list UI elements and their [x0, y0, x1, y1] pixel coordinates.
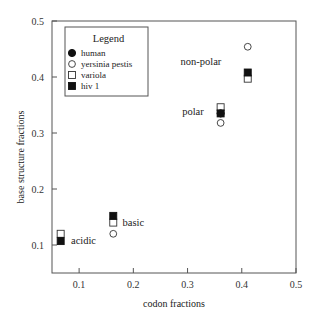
x-tick-label: 0.2 [127, 279, 140, 290]
legend-marker-hiv-1 [69, 83, 76, 90]
legend-label-yersinia-pestis: yersinia pestis [81, 59, 133, 69]
x-axis-label: codon fractions [143, 298, 205, 309]
legend-marker-yersinia-pestis [69, 61, 76, 68]
marker-hiv-1-non-polar [244, 69, 251, 76]
group-label-non-polar: non-polar [181, 56, 222, 67]
marker-hiv-1-basic [110, 212, 117, 219]
y-tick-label: 0.2 [32, 184, 45, 195]
marker-yersinia-pestis-basic [110, 230, 117, 237]
marker-hiv-1-acidic [57, 238, 64, 245]
marker-yersinia-pestis-polar [217, 120, 224, 127]
marker-variola-acidic [57, 230, 64, 237]
group-label-basic: basic [122, 217, 144, 228]
x-tick-label: 0.1 [73, 279, 86, 290]
y-tick-label: 0.1 [32, 240, 45, 251]
legend-marker-variola [69, 72, 76, 79]
marker-yersinia-pestis-non-polar [244, 43, 251, 50]
marker-variola-basic [110, 219, 117, 226]
y-tick-label: 0.3 [32, 128, 45, 139]
y-axis-label: base structure fractions [15, 111, 26, 204]
legend-label-variola: variola [81, 70, 106, 80]
scatter-chart: 0.10.20.30.40.5 0.10.20.30.40.5 codon fr… [0, 0, 315, 320]
group-label-acidic: acidic [71, 235, 96, 246]
y-tick-label: 0.4 [32, 72, 45, 83]
legend: Legend humanyersinia pestisvariolahiv 1 [65, 27, 148, 96]
x-tick-label: 0.5 [290, 279, 303, 290]
legend-label-hiv-1: hiv 1 [81, 81, 99, 91]
marker-human-polar [217, 110, 224, 117]
y-axis: 0.10.20.30.40.5 [32, 16, 58, 251]
x-tick-label: 0.4 [236, 279, 249, 290]
legend-title: Legend [93, 33, 125, 44]
y-tick-label: 0.5 [32, 16, 45, 27]
group-label-polar: polar [182, 106, 204, 117]
x-axis: 0.10.20.30.40.5 [73, 268, 302, 290]
x-tick-label: 0.3 [181, 279, 194, 290]
legend-marker-human [68, 49, 75, 56]
legend-label-human: human [81, 48, 106, 58]
